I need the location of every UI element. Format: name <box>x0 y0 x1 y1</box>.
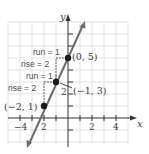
point-neg2-1 <box>41 103 47 109</box>
x-axis <box>8 115 137 121</box>
rise-label-lower: rise = 2 <box>8 83 36 93</box>
run-label-lower: run = 1 <box>26 71 53 81</box>
point-label-neg1-3: (−1, 3) <box>73 85 107 96</box>
y-axis-label: y <box>59 11 66 22</box>
rise-label-upper: rise = 2 <box>21 59 49 69</box>
run-label-upper: run = 1 <box>33 47 60 57</box>
point-label-0-5: (0, 5) <box>72 51 98 62</box>
point-label-neg2-1: (−2, 1) <box>4 101 38 112</box>
y-tick-2: 2 <box>61 87 67 97</box>
x-tick-2: 2 <box>89 122 95 132</box>
x-tick-neg4: −4 <box>14 122 28 132</box>
coordinate-graph: y x −4 2 2 4 2 (0, 5) (−1, 3) (−2, 1) ru… <box>0 0 149 154</box>
x-tick-neg2: 2 <box>41 122 47 132</box>
point-neg1-3 <box>53 79 59 85</box>
y-axis-arrow-icon <box>66 14 71 21</box>
x-axis-arrow-icon <box>130 116 137 121</box>
point-0-5 <box>65 55 71 61</box>
x-axis-label: x <box>137 118 143 129</box>
x-tick-4: 4 <box>113 122 119 132</box>
